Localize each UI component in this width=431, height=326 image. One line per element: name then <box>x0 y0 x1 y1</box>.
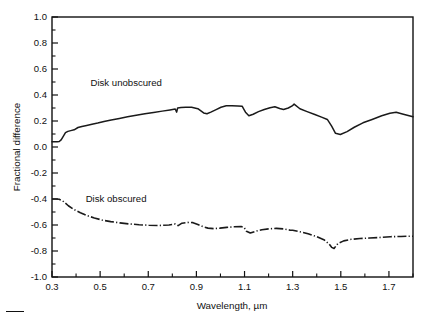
y-tick-label: 1.0 <box>34 11 47 22</box>
chart-canvas: 0.30.50.70.91.11.31.51.7 -1.0-0.8-0.6-0.… <box>0 0 431 326</box>
series-line-disk-unobscured <box>52 104 413 142</box>
y-tick-label: 0.0 <box>34 141 47 152</box>
figure-container: 0.30.50.70.91.11.31.51.7 -1.0-0.8-0.6-0.… <box>0 0 431 326</box>
y-tick-label: 0.2 <box>34 115 47 126</box>
x-tick-label: 1.5 <box>334 281 347 292</box>
x-axis-title: Wavelength, µm <box>197 300 268 311</box>
series-label-disk-unobscured: Disk unobscured <box>91 77 162 88</box>
y-axis-tick-labels: -1.0-0.8-0.6-0.4-0.20.00.20.40.60.81.0 <box>31 11 47 282</box>
y-tick-label: 0.4 <box>34 89 47 100</box>
y-axis-ticks <box>52 17 58 277</box>
x-tick-label: 1.7 <box>382 281 395 292</box>
y-axis-title: Fractional difference <box>11 102 22 191</box>
x-tick-label: 0.9 <box>190 281 203 292</box>
y-tick-label: -0.2 <box>31 167 47 178</box>
x-tick-label: 1.1 <box>238 281 251 292</box>
x-axis-ticks <box>52 271 413 277</box>
footer-rule <box>6 311 24 312</box>
y-tick-label: -0.6 <box>31 219 47 230</box>
x-tick-label: 0.3 <box>45 281 58 292</box>
y-tick-label: -1.0 <box>31 271 47 282</box>
y-tick-label: 0.6 <box>34 63 47 74</box>
y-tick-label: -0.8 <box>31 245 47 256</box>
y-tick-label: -0.4 <box>31 193 47 204</box>
series-label-disk-obscured: Disk obscured <box>86 193 147 204</box>
y-tick-label: 0.8 <box>34 37 47 48</box>
x-tick-label: 0.5 <box>94 281 107 292</box>
x-tick-label: 0.7 <box>142 281 155 292</box>
series-line-disk-obscured <box>52 199 413 248</box>
x-axis-tick-labels: 0.30.50.70.91.11.31.51.7 <box>45 281 395 292</box>
x-tick-label: 1.3 <box>286 281 299 292</box>
